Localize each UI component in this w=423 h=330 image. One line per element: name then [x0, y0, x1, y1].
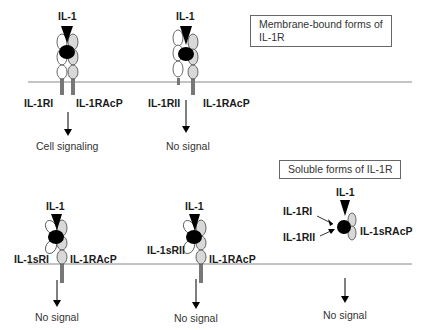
receptor-label: IL-1RI — [24, 97, 53, 109]
outcome-label: Cell signaling — [36, 140, 98, 152]
receptor-label: IL-1RII — [283, 231, 315, 243]
complex-il1srAcP — [337, 200, 356, 240]
accessory-label: IL-1RAcP — [209, 253, 256, 265]
outcome-label: No signal — [166, 140, 210, 152]
legend-soluble: Soluble forms of IL-1R — [279, 160, 401, 179]
ligand-label: IL-1 — [58, 10, 77, 22]
complex-il1sri — [43, 214, 67, 283]
il1-receptor-diagram: Membrane-bound forms of IL-1R Soluble fo… — [0, 0, 423, 330]
complex-il1ri — [57, 26, 78, 95]
accessory-label: IL-1RAcP — [76, 97, 123, 109]
ligand-label: IL-1 — [185, 200, 204, 212]
accessory-label: IL-1sRAcP — [360, 225, 413, 237]
ligand-label: IL-1 — [46, 200, 65, 212]
accessory-label: IL-1RAcP — [70, 253, 117, 265]
ligand-label: IL-1 — [176, 10, 195, 22]
complex-il1rii — [173, 26, 198, 95]
accessory-label: IL-1RAcP — [203, 97, 250, 109]
outcome-label: No signal — [174, 312, 218, 324]
receptor-label: IL-1sRII — [147, 244, 185, 256]
legend-membrane-bound: Membrane-bound forms of IL-1R — [250, 15, 392, 47]
outcome-label: No signal — [35, 311, 79, 323]
outcome-label: No signal — [323, 309, 367, 321]
receptor-label: IL-1RII — [148, 97, 180, 109]
ligand-label: IL-1 — [336, 186, 355, 198]
receptor-label: IL-1RI — [283, 205, 312, 217]
receptor-label: IL-1sRI — [14, 253, 49, 265]
